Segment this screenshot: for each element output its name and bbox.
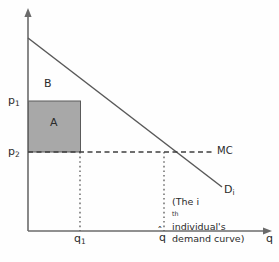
demand-curve-figure: p1 p2 B A MC Di q1 ̂q q (The ith individ…	[0, 0, 279, 262]
caption-line-2: demand curve)	[172, 233, 244, 245]
axis-label-p1: p1	[8, 95, 20, 107]
axis-label-p2: p2	[8, 146, 20, 158]
caption-line-1: (The ith individual's	[172, 196, 244, 233]
y-axis-arrowhead	[24, 8, 31, 17]
axis-label-q1: q1	[74, 233, 86, 245]
axis-label-qhat: ̂q	[159, 232, 166, 243]
demand-curve-label: Di	[224, 184, 235, 196]
region-label-a: A	[50, 117, 58, 128]
figure-caption: (The ith individual's demand curve)	[172, 196, 244, 245]
region-label-b: B	[44, 78, 52, 89]
marginal-cost-label: MC	[217, 146, 233, 156]
x-axis-title: q	[266, 233, 273, 244]
